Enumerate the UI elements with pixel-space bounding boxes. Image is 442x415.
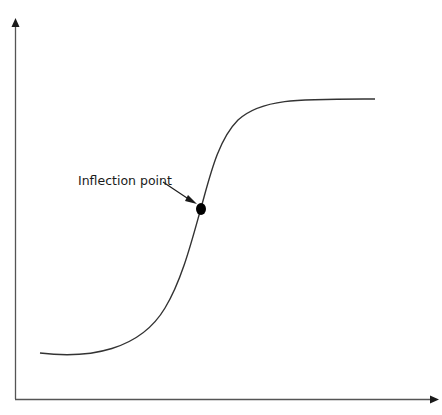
x-axis-arrow-icon [430, 396, 439, 404]
y-axis-arrow-icon [12, 18, 20, 27]
sigmoid-diagram: Inflection point [0, 0, 442, 415]
y-axis [12, 18, 20, 399]
inflection-point-label: Inflection point [78, 173, 172, 188]
sigmoid-curve [40, 99, 375, 355]
x-axis [15, 396, 439, 404]
inflection-point-marker [196, 203, 206, 215]
